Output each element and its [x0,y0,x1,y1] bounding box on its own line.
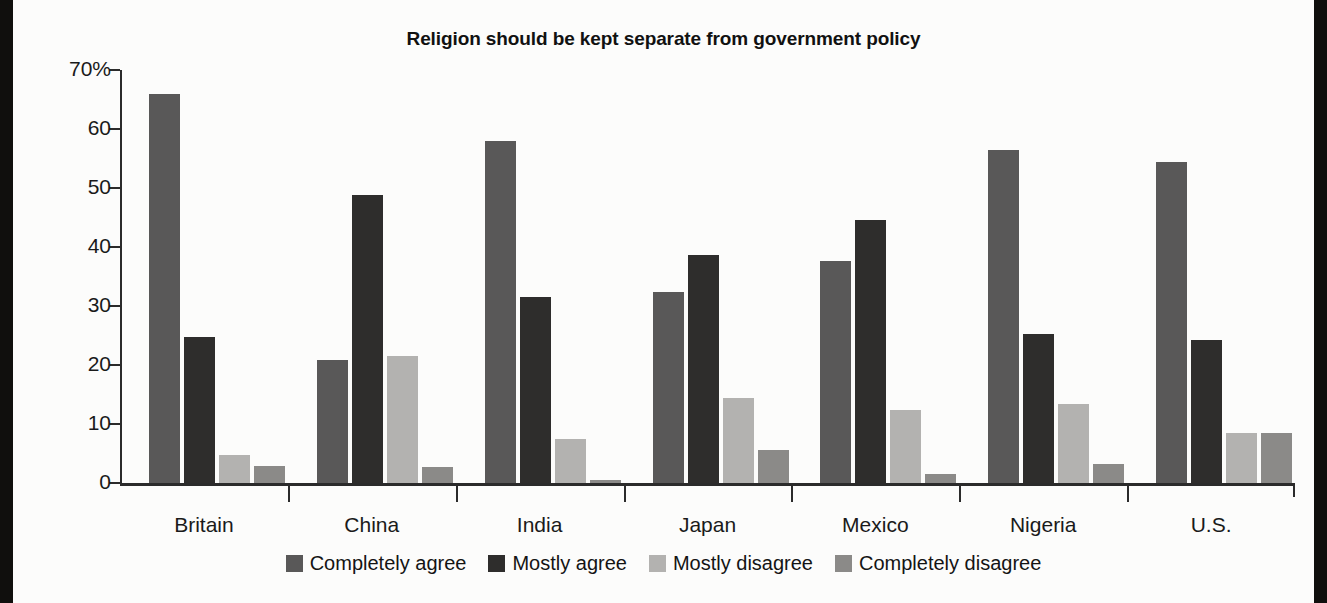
bar [317,360,348,483]
bar [1058,404,1089,483]
bar [254,466,285,483]
bar [485,141,516,483]
legend-swatch-icon [649,555,666,572]
bar [653,292,684,483]
x-axis-right-cap [1293,483,1295,497]
bar [184,337,215,483]
x-axis-tick [624,486,626,502]
chart-title: Religion should be kept separate from go… [13,28,1314,50]
x-axis-tick [456,486,458,502]
bar [590,480,621,483]
y-axis-tick-label: 30 [21,293,111,317]
y-axis-tick-label: 40 [21,234,111,258]
legend-item: Mostly disagree [649,552,813,575]
y-axis-tick-label: 60 [21,116,111,140]
legend-swatch-icon [835,555,852,572]
y-axis-tick-label: 20 [21,352,111,376]
bar [387,356,418,483]
bar [758,450,789,483]
x-axis-category-label: U.S. [1101,513,1321,537]
bar [1191,340,1222,483]
x-axis-tick [1127,486,1129,502]
bar [688,255,719,483]
bar [149,94,180,483]
bar [520,297,551,483]
bar [890,410,921,483]
bar [1226,433,1257,483]
x-axis-line [120,483,1295,486]
bar [1156,162,1187,483]
bar [925,474,956,483]
legend-item: Completely agree [286,552,467,575]
bar [988,150,1019,483]
plot-area: 010203040506070% BritainChinaIndiaJapanM… [120,70,1295,483]
legend-swatch-icon [286,555,303,572]
y-axis-tick-label: 50 [21,175,111,199]
bar [723,398,754,483]
legend-label: Mostly disagree [673,552,813,575]
x-axis-tick [959,486,961,502]
bar [1023,334,1054,483]
legend-swatch-icon [488,555,505,572]
page-left-gutter [0,0,13,603]
legend-item: Completely disagree [835,552,1041,575]
y-axis-line [120,70,122,483]
bar [855,220,886,483]
x-axis-tick [791,486,793,502]
y-axis-tick-label: 10 [21,411,111,435]
bar [555,439,586,483]
bar [219,455,250,483]
legend-label: Completely agree [310,552,467,575]
legend-item: Mostly agree [488,552,627,575]
bar-chart-figure: Religion should be kept separate from go… [13,0,1314,603]
y-axis-tick-label: 0 [21,470,111,494]
legend-label: Mostly agree [512,552,627,575]
scanned-page: Religion should be kept separate from go… [0,0,1327,603]
bar [352,195,383,483]
bar [1093,464,1124,483]
x-axis-tick [288,486,290,502]
bar [820,261,851,483]
bar [422,467,453,483]
chart-legend: Completely agreeMostly agreeMostly disag… [13,552,1314,575]
legend-label: Completely disagree [859,552,1041,575]
bar [1261,433,1292,483]
y-axis-tick-label: 70% [21,57,111,81]
